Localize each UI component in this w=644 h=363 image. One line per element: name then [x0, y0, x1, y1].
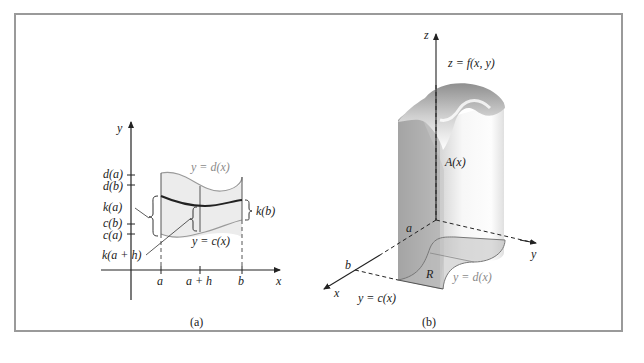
y-axis-label: y: [116, 121, 123, 135]
curve-d-label-b: y = d(x): [452, 270, 492, 284]
y-axis-label-b: y: [530, 247, 537, 261]
caption-b: (b): [422, 315, 436, 329]
x-mark-a: a: [406, 221, 412, 235]
tick-d-b: d(b): [103, 179, 123, 193]
surface-label: z = f(x, y): [447, 56, 495, 70]
curve-c-label-b: y = c(x): [357, 291, 396, 305]
panel-a: y x d(a) d(b) k(a) c(b) c(a) k(a + h) y …: [101, 121, 282, 329]
cross-section-label: A(x): [444, 155, 466, 169]
z-axis-label: z: [423, 28, 429, 42]
x-axis-label-b: x: [333, 286, 340, 300]
curve-d-label: y = d(x): [190, 160, 230, 174]
region-label: R: [425, 267, 434, 281]
x-axis-label: x: [275, 274, 282, 288]
tick-k-a: k(a): [103, 200, 122, 214]
curve-c-label: y = c(x): [191, 234, 230, 248]
x-mark-b: b: [345, 258, 351, 272]
tick-c-a: c(a): [103, 228, 122, 242]
caption-a: (a): [190, 315, 203, 329]
x-tick-a: a: [157, 274, 163, 288]
pointer-k-a-h: k(a + h): [102, 248, 141, 262]
x-axis-3d: [324, 255, 380, 289]
brace-k-a: [149, 196, 158, 236]
brace-k-b: [245, 200, 252, 220]
x-tick-b: b: [238, 274, 244, 288]
x-tick-a-plus-h: a + h: [186, 274, 212, 288]
figure-canvas: y x d(a) d(b) k(a) c(b) c(a) k(a + h) y …: [0, 0, 644, 363]
brace-k-b-label: k(b): [256, 204, 275, 218]
panel-b: z z = f(x, y) A(x) a b R y = d(x) y = c(…: [324, 28, 537, 329]
